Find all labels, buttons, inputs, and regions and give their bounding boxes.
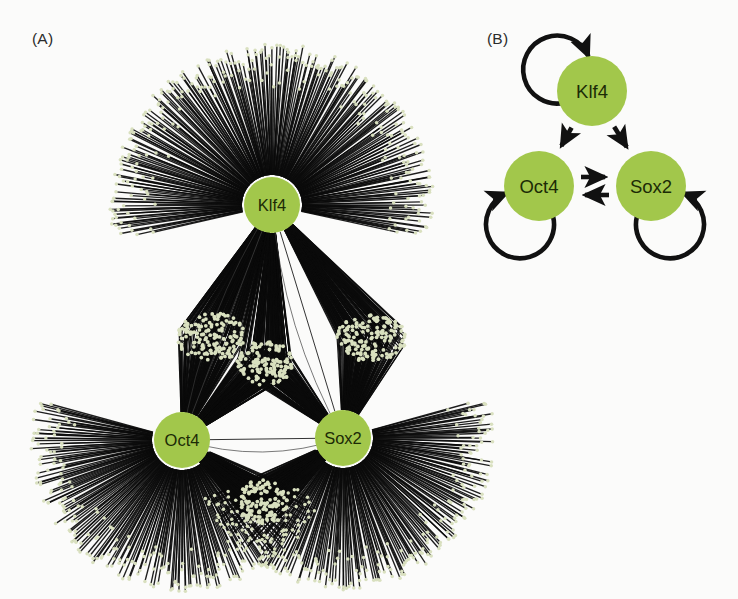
edge-klf4-to-sox2: [614, 127, 627, 147]
circuit-node-klf4: Klf4: [557, 56, 627, 126]
circuit-node-label-oct4: Oct4: [519, 176, 558, 197]
circuit-node-label-sox2: Sox2: [630, 176, 672, 197]
edge-klf4-to-oct4: [561, 128, 571, 146]
figure-canvas: (A) (B) Klf4Oct4Sox2 Klf4Oct4Sox2: [0, 0, 738, 599]
circuit-node-label-klf4: Klf4: [576, 81, 608, 102]
circuit-node-sox2: Sox2: [616, 151, 686, 221]
circuit-node-oct4: Oct4: [504, 151, 574, 221]
panel-b-circuit: Klf4Oct4Sox2: [0, 0, 738, 599]
